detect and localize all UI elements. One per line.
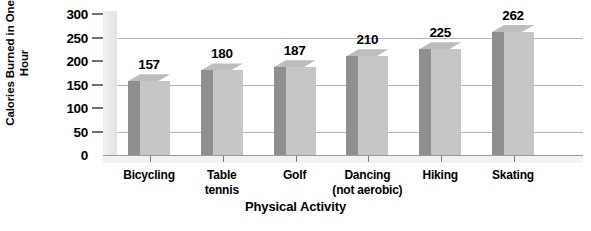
x-category-label-line: Skating	[458, 168, 568, 183]
bar-top-face	[419, 42, 461, 49]
plot-area	[117, 0, 583, 156]
bar-side-face	[201, 70, 213, 155]
x-category-label-line: tennis	[167, 183, 277, 198]
bar-top-face	[128, 74, 170, 81]
bar-value-label: 157	[114, 57, 184, 72]
x-tick-mark	[514, 156, 515, 162]
bar-top-face	[274, 60, 316, 67]
x-tick-mark	[223, 156, 224, 162]
bar	[419, 42, 461, 155]
bar-front-face	[140, 81, 170, 155]
bar-value-label: 180	[187, 46, 257, 61]
y-tick-label: 50	[0, 124, 88, 139]
y-tick-mark	[92, 107, 103, 109]
y-tick-label: 250	[0, 30, 88, 45]
bar-top-face	[346, 49, 388, 56]
bar-side-face	[346, 56, 358, 155]
x-tick-mark	[441, 156, 442, 162]
bar-top-face	[492, 25, 534, 32]
bar-side-face	[128, 81, 140, 155]
bar-side-face	[492, 32, 504, 155]
axis-floor	[103, 156, 583, 163]
axis-wall	[103, 11, 117, 159]
x-axis-title: Physical Activity	[0, 199, 591, 214]
y-tick-mark	[92, 37, 103, 39]
y-tick-label: 300	[0, 7, 88, 22]
y-tick-label: 100	[0, 101, 88, 116]
bar-front-face	[358, 56, 388, 155]
bar	[492, 25, 534, 155]
bar-front-face	[213, 70, 243, 155]
y-tick-mark	[92, 131, 103, 133]
bar-front-face	[504, 32, 534, 155]
x-category-label-line: (not aerobic)	[312, 183, 422, 198]
x-tick-mark	[368, 156, 369, 162]
x-tick-mark	[296, 156, 297, 162]
bar-value-label: 187	[260, 43, 330, 58]
bar-value-label: 225	[405, 25, 475, 40]
y-tick-label: 150	[0, 77, 88, 92]
bar	[128, 74, 170, 155]
bar-side-face	[274, 67, 286, 155]
x-category-label: Skating	[458, 168, 568, 183]
bar-front-face	[431, 49, 461, 155]
y-tick-label: 0	[0, 148, 88, 163]
bar-front-face	[286, 67, 316, 155]
bar-top-face	[201, 63, 243, 70]
bar	[274, 60, 316, 155]
bar	[201, 63, 243, 155]
y-tick-mark	[92, 84, 103, 86]
bar	[346, 49, 388, 155]
y-tick-label: 200	[0, 54, 88, 69]
y-tick-mark	[92, 60, 103, 62]
bar-side-face	[419, 49, 431, 155]
y-tick-mark	[92, 13, 103, 15]
bar-value-label: 262	[478, 8, 548, 23]
bar-value-label: 210	[332, 32, 402, 47]
bar-chart: Calories Burned in One Hour 300250200150…	[0, 0, 591, 231]
y-axis-ticks: 300250200150100500	[0, 0, 88, 231]
x-tick-mark	[150, 156, 151, 162]
